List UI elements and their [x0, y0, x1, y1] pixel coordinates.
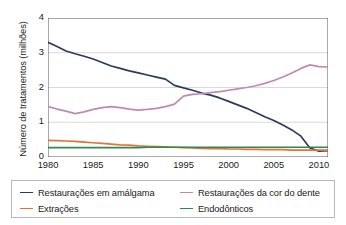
plot-area	[48, 18, 328, 157]
y-tick-label-1: 1	[22, 117, 44, 126]
y-tick-label-2: 2	[22, 83, 44, 92]
x-tick-label-2010: 2010	[299, 161, 339, 170]
legend-item-2[interactable]: Extrações	[20, 201, 78, 216]
x-tick-label-2000: 2000	[209, 161, 249, 170]
legend-swatch-icon	[20, 192, 33, 193]
legend-swatch-icon	[20, 208, 33, 209]
x-tick-label-1995: 1995	[163, 161, 203, 170]
legend-label: Extrações	[38, 204, 78, 214]
legend-item-1[interactable]: Restaurações da cor do dente	[180, 185, 320, 200]
x-tick-label-1990: 1990	[118, 161, 158, 170]
legend-label: Restaurações da cor do dente	[198, 188, 320, 198]
x-tick-label-1985: 1985	[73, 161, 113, 170]
x-tick-label-1980: 1980	[28, 161, 68, 170]
data-series-group	[48, 42, 328, 151]
series-line-2	[48, 140, 328, 150]
legend-swatch-icon	[180, 192, 193, 193]
line-chart-svg	[48, 18, 328, 157]
legend-item-0[interactable]: Restaurações em amálgama	[20, 185, 154, 200]
legend-swatch-icon	[180, 208, 193, 209]
legend-label: Restaurações em amálgama	[38, 188, 154, 198]
legend-item-3[interactable]: Endodônticos	[180, 201, 253, 216]
gridlines	[48, 53, 328, 123]
series-line-0	[48, 42, 328, 151]
chart-figure: Número de tratamentos (milhões) 01234 19…	[0, 0, 346, 225]
y-tick-label-4: 4	[22, 13, 44, 22]
y-tick-label-3: 3	[22, 48, 44, 57]
legend-label: Endodônticos	[198, 204, 253, 214]
chart-legend: Restaurações em amálgamaRestaurações da …	[11, 180, 335, 218]
x-tick-label-2005: 2005	[254, 161, 294, 170]
